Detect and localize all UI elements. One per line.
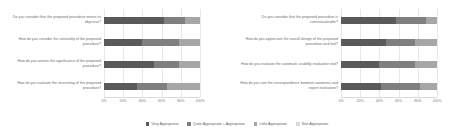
stacked-bar: [341, 61, 437, 68]
stacked-bar: [104, 61, 200, 68]
bar-segment: [104, 61, 154, 68]
bar-segment: [179, 39, 200, 46]
x-axis-tick-label: 100%: [195, 99, 204, 104]
x-axis-left: 0%20%40%60%80%100%: [104, 97, 200, 107]
bar-segment: [185, 17, 200, 24]
bar-segment: [379, 61, 415, 68]
bar-row: How do you assess the significance of th…: [0, 55, 237, 73]
x-axis-tick-label: 0%: [338, 99, 343, 104]
stacked-bar: [341, 83, 437, 90]
bar-segment: [104, 39, 142, 46]
stacked-bar-chart-figure: Do you consider that the proposed proced…: [0, 0, 474, 135]
legend-item[interactable]: Quite Appropriate + Appropriate: [187, 122, 244, 127]
x-axis-tick-label: 60%: [158, 99, 165, 104]
bar-segment: [426, 17, 437, 24]
x-axis-tick-label: 20%: [357, 99, 364, 104]
legend-label: Very Appropriate: [151, 122, 178, 127]
bar-segment: [341, 39, 386, 46]
legend-item[interactable]: Non Appropriate: [296, 122, 328, 127]
bar-segment: [341, 83, 381, 90]
x-axis-tick-label: 60%: [395, 99, 402, 104]
bar-segment: [341, 17, 396, 24]
legend-swatch-icon: [296, 122, 300, 126]
chart-panels: Do you consider that the proposed proced…: [0, 0, 474, 113]
bar-row-label: Do you consider that the proposed proced…: [0, 15, 104, 24]
plot-area-left: Do you consider that the proposed proced…: [0, 9, 237, 97]
x-axis-tick-label: 40%: [376, 99, 383, 104]
bar-row: Do you consider that the proposed proced…: [237, 11, 474, 29]
bar-segment: [386, 39, 415, 46]
legend-swatch-icon: [254, 122, 258, 126]
bar-row: How do you rate the correspondence betwe…: [237, 77, 474, 95]
legend-swatch-icon: [187, 122, 191, 126]
bar-segment: [104, 17, 164, 24]
bar-row: Do you consider that the proposed proced…: [0, 11, 237, 29]
bar-segment: [154, 61, 179, 68]
x-axis-right: 0%20%40%60%80%100%: [341, 97, 437, 107]
bar-row-label: How do you evaluate the structuring of t…: [0, 81, 104, 90]
x-axis-line: [104, 97, 200, 98]
bar-segment: [341, 61, 379, 68]
bar-segment: [415, 39, 437, 46]
x-axis-tick-label: 80%: [177, 99, 184, 104]
bar-segment: [415, 61, 437, 68]
bar-segment: [142, 39, 178, 46]
bar-row-label: How do you evaluate the automatic usabil…: [237, 62, 341, 67]
bar-segment: [167, 83, 200, 90]
legend-item[interactable]: Little Appropriate: [254, 122, 287, 127]
bar-segment: [104, 83, 137, 90]
bar-row: How do you evaluate the automatic usabil…: [237, 55, 474, 73]
stacked-bar: [341, 39, 437, 46]
x-axis-tick-label: 80%: [414, 99, 421, 104]
legend-label: Non Appropriate: [302, 122, 329, 127]
bar-row-label: How do you assess the significance of th…: [0, 59, 104, 68]
bar-row-label: How do you consider the rationality of t…: [0, 37, 104, 46]
bar-row: How do you consider the rationality of t…: [0, 33, 237, 51]
legend-swatch-icon: [146, 122, 150, 126]
chart-panel-left: Do you consider that the proposed proced…: [0, 0, 237, 113]
bar-segment: [420, 83, 437, 90]
chart-legend: Very AppropriateQuite Appropriate + Appr…: [0, 117, 474, 131]
bar-rows-left: Do you consider that the proposed proced…: [0, 9, 237, 97]
x-axis-tick-label: 40%: [139, 99, 146, 104]
bar-segment: [396, 17, 427, 24]
legend-item[interactable]: Very Appropriate: [146, 122, 179, 127]
x-axis-tick-label: 100%: [432, 99, 441, 104]
bar-row: How do you appreciate the overall design…: [237, 33, 474, 51]
stacked-bar: [341, 17, 437, 24]
x-axis-tick-label: 0%: [101, 99, 106, 104]
bar-segment: [164, 17, 185, 24]
bar-segment: [381, 83, 419, 90]
bar-row: How do you evaluate the structuring of t…: [0, 77, 237, 95]
legend-label: Quite Appropriate + Appropriate: [193, 122, 245, 127]
bar-rows-right: Do you consider that the proposed proced…: [237, 9, 474, 97]
bar-segment: [179, 61, 200, 68]
stacked-bar: [104, 83, 200, 90]
stacked-bar: [104, 17, 200, 24]
plot-area-right: Do you consider that the proposed proced…: [237, 9, 474, 97]
x-axis-line: [341, 97, 437, 98]
x-axis-tick-label: 20%: [120, 99, 127, 104]
stacked-bar: [104, 39, 200, 46]
chart-panel-right: Do you consider that the proposed proced…: [237, 0, 474, 113]
bar-segment: [137, 83, 168, 90]
bar-row-label: How do you appreciate the overall design…: [237, 37, 341, 46]
bar-row-label: Do you consider that the proposed proced…: [237, 15, 341, 24]
legend-label: Little Appropriate: [259, 122, 287, 127]
bar-row-label: How do you rate the correspondence betwe…: [237, 81, 341, 90]
